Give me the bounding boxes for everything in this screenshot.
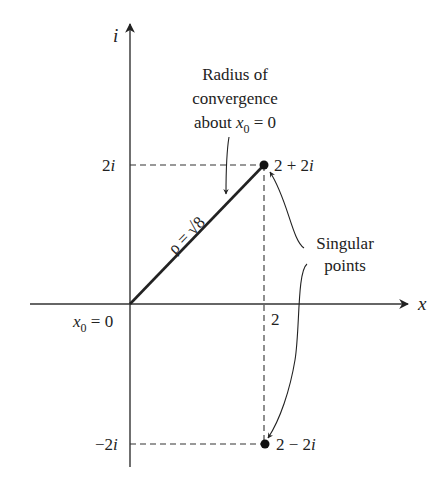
radius-pointer-arrow [226,137,229,194]
singular-pointer-upper-arrow [270,172,304,248]
svg-text:convergence: convergence [192,89,278,108]
y-tick-negative: −2i [95,435,118,454]
origin-label: x0 = 0 [72,312,113,335]
real-axis-label: x [417,293,427,314]
complex-plane-diagram: i x 2i −2i 2 x0 = 0 2 + 2i 2 − 2i Radius… [0,0,444,484]
point-label-upper: 2 + 2i [274,156,314,175]
singular-point-upper [260,161,269,170]
singular-pointer-lower-arrow [268,264,307,438]
x-tick-2: 2 [271,310,280,329]
singular-point-lower [261,440,270,449]
imag-axis-label: i [113,25,118,46]
singular-points-annotation: Singular points [316,234,374,275]
svg-text:Singular: Singular [316,234,374,253]
radius-annotation: Radius of convergence about x0 = 0 [192,65,278,136]
rho-label: ρ = √8 [164,213,209,258]
point-label-lower: 2 − 2i [276,435,316,454]
svg-text:about x0 = 0: about x0 = 0 [194,113,276,136]
y-tick-positive: 2i [102,156,116,175]
svg-text:points: points [324,256,366,275]
svg-text:Radius of: Radius of [202,65,268,84]
